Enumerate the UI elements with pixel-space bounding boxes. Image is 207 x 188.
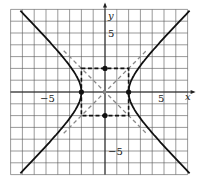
x-axis-label: x	[185, 91, 191, 102]
x-tick-5: 5	[158, 93, 164, 104]
axes	[11, 2, 196, 174]
x-tick-neg5: −5	[40, 93, 55, 104]
hyperbola-chart: y x −5 5 5 −5	[0, 0, 207, 188]
y-tick-5: 5	[108, 28, 114, 39]
y-tick-neg5: −5	[108, 146, 123, 157]
y-axis-label: y	[107, 10, 114, 21]
